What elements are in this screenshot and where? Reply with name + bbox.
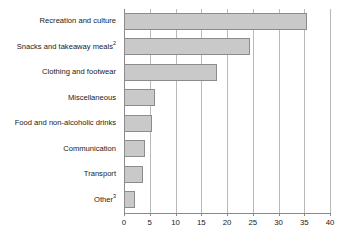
value-axis: 0510152025303540 (124, 213, 330, 235)
category-label: Transport (0, 169, 116, 178)
category-label: Snacks and takeaway meals2 (0, 42, 116, 51)
category-label: Food and non-alcoholic drinks (0, 118, 116, 127)
value-tick-label: 30 (274, 218, 283, 228)
value-tick-label: 15 (197, 218, 206, 228)
value-tick-label: 25 (248, 218, 257, 228)
value-tick-label: 35 (300, 218, 309, 228)
value-tick-mark (150, 213, 151, 216)
value-tick-label: 10 (171, 218, 180, 228)
bar-chart: Recreation and cultureSnacks and takeawa… (0, 0, 340, 245)
bar (124, 64, 217, 81)
value-tick-mark (304, 213, 305, 216)
bar (124, 191, 135, 208)
plot-area (124, 9, 330, 213)
value-tick-mark (176, 213, 177, 216)
bar (124, 140, 145, 157)
value-tick-mark (253, 213, 254, 216)
bar-row (124, 188, 330, 214)
bar-row (124, 162, 330, 188)
category-label: Clothing and footwear (0, 67, 116, 76)
bar-row (124, 60, 330, 86)
value-tick-mark (201, 213, 202, 216)
bar (124, 115, 152, 132)
bar-row (124, 111, 330, 137)
bar (124, 166, 143, 183)
category-label-footnote: 3 (113, 193, 116, 199)
value-tick-mark (124, 213, 125, 216)
bar-row (124, 137, 330, 163)
category-label: Communication (0, 144, 116, 153)
bar-row (124, 9, 330, 35)
bar-row (124, 35, 330, 61)
bar (124, 38, 250, 55)
category-label: Miscellaneous (0, 93, 116, 102)
value-tick-label: 20 (223, 218, 232, 228)
category-axis: Recreation and cultureSnacks and takeawa… (0, 9, 120, 213)
value-tick-label: 0 (122, 218, 126, 228)
category-label: Other3 (0, 195, 116, 204)
value-tick-label: 40 (326, 218, 335, 228)
bar-row (124, 86, 330, 112)
value-tick-mark (279, 213, 280, 216)
bar (124, 13, 307, 30)
category-label-footnote: 2 (113, 40, 116, 46)
value-tick-mark (330, 213, 331, 216)
value-tick-mark (227, 213, 228, 216)
category-label: Recreation and culture (0, 16, 116, 25)
value-tick-label: 5 (148, 218, 152, 228)
bar (124, 89, 155, 106)
gridline-40 (330, 9, 331, 213)
